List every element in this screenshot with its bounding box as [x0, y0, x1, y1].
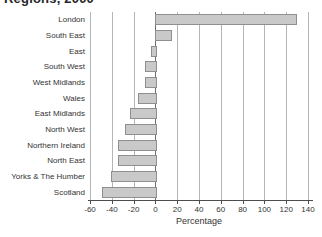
bar [118, 155, 157, 166]
category-label: East Midlands [0, 109, 85, 118]
bar [145, 77, 158, 88]
category-label: South East [0, 31, 85, 40]
gridline [90, 12, 91, 200]
tick-mark [112, 201, 113, 204]
tick-label: 120 [280, 205, 293, 214]
tick-mark [308, 201, 309, 204]
tick-label: 0 [153, 205, 157, 214]
gridline [199, 12, 200, 200]
bar [111, 171, 158, 182]
gridline [308, 12, 309, 200]
x-axis-line [88, 200, 313, 201]
tick-label: 140 [301, 205, 314, 214]
tick-label: -20 [128, 205, 140, 214]
category-label: North East [0, 156, 85, 165]
bar [130, 108, 157, 119]
tick-label: 80 [238, 205, 247, 214]
plot-area [90, 12, 308, 200]
bar [155, 14, 297, 25]
tick-label: 60 [216, 205, 225, 214]
bar [151, 46, 157, 57]
bar [155, 30, 171, 41]
tick-mark [177, 201, 178, 204]
gridline [177, 12, 178, 200]
bar [125, 124, 158, 135]
tick-mark [243, 201, 244, 204]
gridline [221, 12, 222, 200]
tick-label: 20 [173, 205, 182, 214]
category-label: North West [0, 125, 85, 134]
tick-mark [286, 201, 287, 204]
tick-mark [155, 201, 156, 204]
bar [118, 140, 157, 151]
chart-title-cropped: Regions, 2000 [4, 0, 244, 7]
tick-label: -40 [106, 205, 118, 214]
tick-mark [221, 201, 222, 204]
category-label: London [0, 15, 85, 24]
category-label: Scotland [0, 188, 85, 197]
tick-label: 100 [258, 205, 271, 214]
category-label: Yorks & The Humber [0, 172, 85, 181]
category-label: East [0, 47, 85, 56]
tick-mark [90, 201, 91, 204]
chart-title-text: Regions, 2000 [4, 0, 244, 6]
tick-label: 40 [195, 205, 204, 214]
gridline [286, 12, 287, 200]
chart-figure: Regions, 2000 LondonSouth EastEastSouth … [0, 0, 322, 237]
bar [102, 187, 157, 198]
category-label: South West [0, 62, 85, 71]
category-label: West Midlands [0, 78, 85, 87]
tick-label: -60 [84, 205, 96, 214]
tick-mark [264, 201, 265, 204]
category-label: Wales [0, 94, 85, 103]
category-label: Northern Ireland [0, 141, 85, 150]
bar [145, 61, 158, 72]
x-axis-label: Percentage [176, 216, 222, 226]
gridline [243, 12, 244, 200]
bar [138, 93, 157, 104]
gridline [264, 12, 265, 200]
tick-mark [199, 201, 200, 204]
tick-mark [134, 201, 135, 204]
